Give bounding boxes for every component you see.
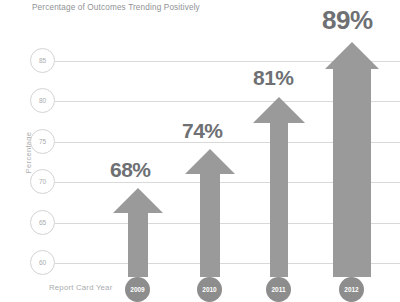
- y-tick-80: 80: [30, 88, 55, 113]
- y-tick-60: 60: [30, 250, 55, 275]
- x-tick-2012: 2012: [339, 277, 364, 302]
- value-label-2009: 68%: [110, 158, 151, 182]
- bar-arrow-2012: [325, 42, 379, 277]
- bar-arrow-2010: [185, 149, 235, 277]
- bar-arrow-2009: [113, 188, 163, 277]
- x-tick-2011: 2011: [266, 277, 291, 302]
- y-tick-70: 70: [30, 169, 55, 194]
- y-tick-75: 75: [30, 129, 55, 154]
- y-tick-85: 85: [30, 48, 55, 73]
- x-tick-2009: 2009: [125, 277, 150, 302]
- value-label-2011: 81%: [253, 66, 294, 90]
- y-tick-65: 65: [30, 210, 55, 235]
- chart-title: Percentage of Outcomes Trending Positive…: [32, 3, 200, 12]
- x-tick-2010: 2010: [197, 277, 222, 302]
- value-label-2010: 74%: [182, 119, 223, 143]
- bar-arrow-2011: [253, 97, 305, 277]
- chart-container: Percentage of Outcomes Trending Positive…: [0, 0, 400, 302]
- value-label-2012: 89%: [322, 5, 373, 36]
- x-axis-title: Report Card Year: [49, 283, 112, 292]
